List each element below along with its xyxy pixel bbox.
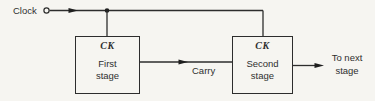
stage2-name-line2: stage (246, 70, 278, 82)
clock-terminal-circle (44, 8, 49, 13)
stage1-box: CK First stage (75, 36, 140, 94)
carry-arrowhead (179, 59, 189, 64)
carry-label: Carry (192, 65, 215, 76)
output-label-line1: To next (327, 52, 367, 65)
stage1-name-line2: stage (96, 70, 119, 82)
stage2-name-line1: Second (246, 58, 278, 70)
stage2-ck-pin-label: CK (255, 40, 269, 51)
output-label: To next stage (327, 52, 367, 77)
output-label-line2: stage (327, 65, 367, 78)
clock-label: Clock (13, 5, 37, 16)
clock-wire-arrowhead (69, 8, 79, 13)
stage2-name: Second stage (246, 58, 278, 82)
stage1-name: First stage (96, 58, 119, 82)
two-stage-counter-diagram: Clock CK First stage CK Second stage Car… (0, 0, 375, 101)
wires-layer (0, 0, 375, 101)
stage2-box: CK Second stage (232, 36, 293, 94)
output-arrowhead (315, 63, 325, 68)
stage1-ck-pin-label: CK (100, 40, 114, 51)
stage1-name-line1: First (96, 58, 119, 70)
